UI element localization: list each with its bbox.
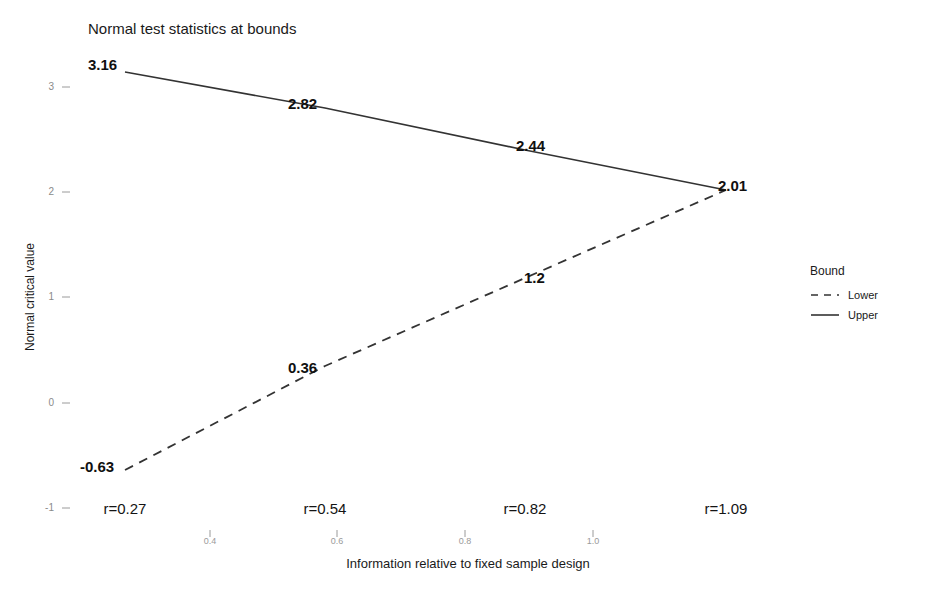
strip-label-analysis-3: r=0.82 bbox=[450, 500, 600, 517]
chart-figure: Normal test statistics at bounds Normal … bbox=[0, 0, 936, 594]
x-axis-title: Information relative to fixed sample des… bbox=[0, 556, 936, 571]
y-tick-label: 3 bbox=[26, 81, 54, 92]
chart-title: Normal test statistics at bounds bbox=[88, 20, 296, 37]
legend-label-upper: Upper bbox=[848, 309, 878, 321]
legend-key-solid-icon bbox=[810, 309, 840, 321]
series-line-lower bbox=[125, 190, 726, 470]
y-tick-label: 2 bbox=[26, 186, 54, 197]
x-tick-label: 0.6 bbox=[317, 536, 357, 546]
point-label-upper-2: 2.82 bbox=[288, 95, 317, 112]
point-label-upper-3: 2.44 bbox=[516, 137, 545, 154]
strip-label-analysis-1: r=0.27 bbox=[50, 500, 200, 517]
point-label-upper-4: 2.01 bbox=[718, 177, 747, 194]
point-label-lower-2: 0.36 bbox=[288, 359, 317, 376]
x-tick-label: 0.4 bbox=[190, 536, 230, 546]
y-tick-label: 0 bbox=[26, 397, 54, 408]
strip-label-analysis-4: r=1.09 bbox=[651, 500, 801, 517]
x-tick-label: 1.0 bbox=[573, 536, 613, 546]
legend-item-upper[interactable]: Upper bbox=[810, 305, 930, 325]
legend-key-dashed-icon bbox=[810, 289, 840, 301]
legend-item-lower[interactable]: Lower bbox=[810, 285, 930, 305]
y-tick-label: 1 bbox=[26, 291, 54, 302]
legend: Bound Lower Upper bbox=[810, 264, 930, 325]
legend-title: Bound bbox=[810, 264, 930, 278]
legend-label-lower: Lower bbox=[848, 289, 878, 301]
point-label-lower-3: 1.2 bbox=[524, 269, 545, 286]
x-tick-label: 0.8 bbox=[445, 536, 485, 546]
series-line-upper bbox=[125, 72, 726, 190]
point-label-upper-1: 3.16 bbox=[88, 56, 117, 73]
strip-label-analysis-2: r=0.54 bbox=[250, 500, 400, 517]
point-label-lower-1: -0.63 bbox=[80, 458, 114, 475]
